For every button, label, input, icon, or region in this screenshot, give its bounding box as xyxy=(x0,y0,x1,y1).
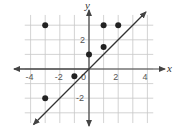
data-series xyxy=(34,12,146,124)
x-tick-label: -2 xyxy=(55,72,63,82)
data-point xyxy=(71,73,77,79)
x-axis-label: x xyxy=(166,62,172,74)
data-point xyxy=(101,44,107,50)
y-tick-label: -2 xyxy=(76,93,84,103)
data-point xyxy=(86,51,92,57)
x-tick-label: -4 xyxy=(26,72,34,82)
x-tick-label: 4 xyxy=(142,72,147,82)
data-point xyxy=(42,95,48,101)
data-point xyxy=(101,22,107,28)
data-point xyxy=(42,22,48,28)
data-point xyxy=(115,22,121,28)
x-tick-label: 2 xyxy=(113,72,118,82)
y-axis-label: y xyxy=(84,0,90,11)
line-y-equals-x xyxy=(89,12,146,69)
axes: x y xyxy=(14,0,172,126)
scatter-plot: x y -4-20242-2 xyxy=(0,0,179,135)
y-tick-label: 2 xyxy=(80,35,85,45)
